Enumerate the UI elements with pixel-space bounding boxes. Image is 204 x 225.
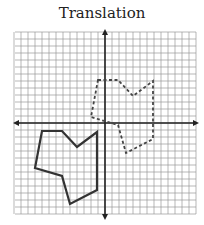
- coordinate-grid: [0, 0, 204, 225]
- translated-polygon: [91, 80, 153, 153]
- axes: [13, 29, 199, 220]
